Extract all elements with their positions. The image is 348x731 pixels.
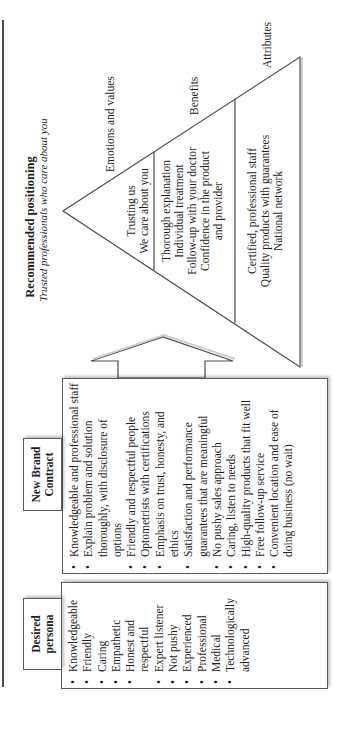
list-item: Medical [209,587,223,686]
list-item: High-quality products that fit well [239,383,253,571]
arrow-icon [91,337,233,378]
list-item: Knowledgeable and professional staff [67,383,81,571]
desired-persona-header: Desired persona [23,598,62,670]
tier-label-emotions: Emotions and values [104,76,116,172]
list-item: Honest and respectful [123,587,152,686]
list-item: Friendly [80,587,94,686]
desired-persona-list: Knowledgeable Friendly Caring Empathetic… [66,587,252,686]
tier-text-benefits: Thorough explanation Individual treatmen… [160,111,225,311]
list-item: Friendly and respectful people [124,383,138,571]
tier-text-emotions: Trusting us We care about you [125,111,151,311]
tier-label-attributes: Attributes [261,22,273,68]
list-item: Emphasis on trust, honesty, and ethics [153,383,182,571]
brand-positioning-diagram: Recommended positioning Trusted professi… [0,0,348,731]
list-item: Optometrists with certifications [138,383,152,571]
tier-label-benefits: Benefits [188,77,200,115]
desired-persona-box: Knowledgeable Friendly Caring Empathetic… [61,582,328,689]
list-item: Knowledgeable [66,587,80,686]
list-item: Empathetic [109,587,123,686]
list-item: Experienced [180,587,194,686]
list-item: Satisfaction and performance guarantees … [181,383,210,571]
list-item: Free follow-up service [253,383,267,571]
tier-text-attributes: Certified, professional staff Quality pr… [246,111,285,311]
list-item: Technologically advanced [223,587,252,686]
list-item: Expert listener [152,587,166,686]
list-item: Explain problem and solution thoroughly,… [81,383,124,571]
new-brand-contract-header: New Brand Contract [23,438,62,511]
list-item: Professional [195,587,209,686]
list-item: Not pushy [166,587,180,686]
list-item: No pushy sales approach [210,383,224,571]
list-item: Caring [95,587,109,686]
list-item: Caring, listen to needs [224,383,238,571]
new-brand-contract-list: Knowledgeable and professional staff Exp… [67,383,296,571]
new-brand-contract-box: Knowledgeable and professional staff Exp… [62,378,328,574]
list-item: Convenient location and ease of doing bu… [267,383,296,571]
